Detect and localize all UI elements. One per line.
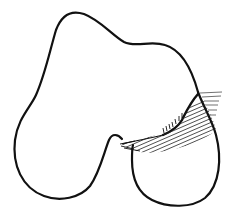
line-drawing	[0, 0, 232, 217]
illustration: Line drawing of a bone outline with a ha…	[0, 0, 232, 217]
